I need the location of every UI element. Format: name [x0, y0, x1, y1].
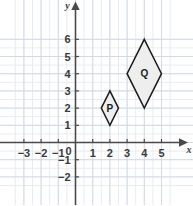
y-tick-label: 3 — [64, 85, 70, 97]
y-axis-arrow-icon — [71, 2, 79, 11]
shape-p: P — [101, 91, 118, 125]
axis-names: xy — [64, 0, 191, 155]
x-tick-label: 1 — [90, 147, 96, 159]
axes — [0, 2, 188, 206]
y-tick-label: 4 — [64, 68, 71, 80]
y-axis-label: y — [64, 0, 70, 11]
coordinate-plane-figure: −3−2−112345−2−11234560xyPQ — [0, 0, 193, 205]
shape-q: Q — [127, 39, 161, 108]
y-tick-label: 1 — [64, 119, 70, 131]
x-tick-label: −2 — [35, 147, 48, 159]
y-tick-label: −2 — [58, 171, 71, 183]
shape-p-label: P — [107, 103, 114, 114]
x-axis-label: x — [186, 144, 192, 155]
y-tick-label: 5 — [64, 51, 70, 63]
origin-label: 0 — [65, 145, 71, 157]
x-tick-label: 3 — [124, 147, 130, 159]
y-tick-label: 6 — [64, 33, 70, 45]
x-tick-label: −3 — [18, 147, 31, 159]
major-gridlines — [0, 0, 193, 205]
y-tick-label: 2 — [64, 102, 70, 114]
x-tick-label: 4 — [141, 147, 148, 159]
x-tick-label: 2 — [107, 147, 113, 159]
shape-q-label: Q — [140, 68, 148, 79]
minor-gridlines — [0, 0, 193, 205]
x-tick-label: 5 — [158, 147, 164, 159]
coordinate-plane-svg: −3−2−112345−2−11234560xyPQ — [0, 0, 193, 205]
